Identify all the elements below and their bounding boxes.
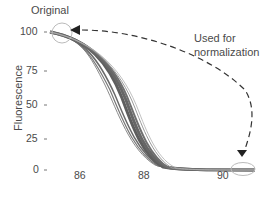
y-axis-label: Fluorescence	[12, 58, 24, 138]
y-tick-0: 0	[33, 163, 39, 175]
y-tick-marks	[44, 32, 47, 170]
annotation-line-2: normalization	[194, 46, 259, 58]
x-tick-88: 88	[138, 169, 150, 181]
y-tick-50: 50	[26, 98, 38, 110]
annotation-line-1: Used for	[194, 32, 236, 44]
x-tick-90: 90	[217, 169, 229, 181]
y-tick-25: 25	[26, 132, 38, 144]
y-tick-75: 75	[26, 64, 38, 76]
arrowhead-down-icon	[237, 150, 247, 157]
y-tick-100: 100	[20, 25, 38, 37]
melting-curve-chart	[0, 0, 272, 202]
original-label: Original	[31, 4, 69, 16]
x-tick-86: 86	[74, 169, 86, 181]
